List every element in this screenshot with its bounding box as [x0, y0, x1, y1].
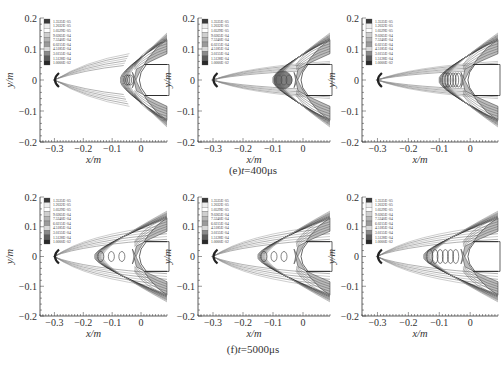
legend-swatch: [366, 226, 372, 231]
legend-level-label: 1.0000E+02: [211, 240, 229, 244]
y-tick-label: 0.1: [183, 221, 196, 232]
x-tick-label: −0.2: [74, 143, 92, 154]
legend-swatch: [44, 37, 50, 42]
x-tick-label: −0.3: [45, 143, 63, 154]
y-tick-label: 0.2: [25, 13, 38, 24]
legend-level-label: 1.5128E+04: [53, 57, 71, 61]
legend-level-label: 9.0265E+04: [53, 213, 71, 217]
legend-swatch: [44, 239, 50, 244]
legend-level-label: 1.2032E+05: [211, 24, 229, 28]
legend-swatch: [202, 24, 208, 29]
legend-level-label: 1.3535E+05: [53, 199, 71, 203]
legend-level-label: 6.0215E+04: [375, 222, 393, 226]
legend-level-label: 4.5185E+04: [53, 47, 71, 51]
y-axis-label: y/m: [4, 249, 15, 266]
legend-swatch: [44, 42, 50, 47]
legend-level-label: 9.0265E+04: [375, 213, 393, 217]
contour-panel-1-1: −0.3−0.2−0.100.20.10−0.1−0.2x/my/m1.3535…: [162, 192, 332, 340]
legend-swatch: [44, 203, 50, 208]
legend-level-label: 4.5185E+04: [211, 47, 229, 51]
legend-swatch: [44, 212, 50, 217]
legend-level-label: 1.0529E+05: [375, 208, 393, 212]
contour-legend: 1.3535E+051.2032E+051.0529E+059.0265E+04…: [202, 19, 229, 65]
contour-legend: 1.3535E+051.2032E+051.0529E+059.0265E+04…: [44, 19, 71, 65]
legend-level-label: 3.0155E+04: [211, 231, 229, 235]
y-tick-label: 0.1: [25, 44, 38, 55]
legend-level-label: 4.5185E+04: [375, 47, 393, 51]
x-tick-label: 0: [468, 143, 473, 154]
legend-swatch: [202, 216, 208, 221]
legend-level-label: 7.5240E+04: [375, 38, 393, 42]
contour-legend: 1.3535E+051.2032E+051.0529E+059.0265E+04…: [202, 198, 229, 244]
caption-row-e: (e)t=400μs: [173, 164, 333, 176]
y-axis-label: y/m: [162, 72, 173, 89]
legend-swatch: [44, 33, 50, 38]
legend-swatch: [44, 28, 50, 33]
y-axis-label: y/m: [4, 72, 15, 89]
legend-level-label: 3.0155E+04: [53, 52, 71, 56]
legend-level-label: 1.5128E+04: [211, 57, 229, 61]
legend-swatch: [366, 33, 372, 38]
y-tick-label: −0.2: [341, 137, 359, 148]
legend-level-label: 9.0265E+04: [375, 34, 393, 38]
legend-level-label: 3.0155E+04: [53, 231, 71, 235]
legend-swatch: [202, 51, 208, 56]
x-tick-label: −0.1: [264, 317, 282, 328]
legend-swatch: [202, 47, 208, 52]
legend-swatch: [202, 56, 208, 61]
y-tick-label: 0.1: [347, 44, 360, 55]
y-tick-label: −0.1: [19, 281, 37, 292]
legend-swatch: [366, 56, 372, 61]
legend-swatch: [366, 47, 372, 52]
x-tick-label: −0.1: [264, 143, 282, 154]
contour-panel-0-2: −0.3−0.2−0.100.20.10−0.1−0.2x/my/m1.3535…: [326, 13, 500, 166]
legend-swatch: [202, 19, 208, 24]
legend-swatch: [44, 19, 50, 24]
legend-level-label: 1.2032E+05: [53, 24, 71, 28]
y-tick-label: 0.2: [183, 13, 196, 24]
legend-level-label: 1.2032E+05: [53, 203, 71, 207]
legend-level-label: 1.0000E+02: [375, 61, 393, 65]
legend-level-label: 1.3535E+05: [53, 20, 71, 24]
legend-level-label: 1.3535E+05: [211, 199, 229, 203]
y-tick-label: −0.2: [19, 137, 37, 148]
legend-swatch: [44, 24, 50, 29]
legend-level-label: 9.0265E+04: [211, 213, 229, 217]
legend-swatch: [366, 24, 372, 29]
legend-swatch: [366, 51, 372, 56]
y-tick-label: 0: [32, 251, 37, 262]
legend-swatch: [366, 28, 372, 33]
legend-swatch: [366, 207, 372, 212]
x-tick-label: 0: [139, 317, 144, 328]
contour-legend: 1.3535E+051.2032E+051.0529E+059.0265E+04…: [44, 198, 71, 244]
y-axis-label: y/m: [326, 72, 337, 89]
legend-level-label: 3.0155E+04: [375, 231, 393, 235]
legend-swatch: [202, 239, 208, 244]
legend-swatch: [44, 221, 50, 226]
legend-level-label: 9.0265E+04: [211, 34, 229, 38]
legend-swatch: [44, 226, 50, 231]
legend-level-label: 6.0215E+04: [53, 222, 71, 226]
legend-swatch: [366, 216, 372, 221]
legend-swatch: [366, 212, 372, 217]
legend-swatch: [44, 47, 50, 52]
legend-level-label: 1.0000E+02: [211, 61, 229, 65]
x-tick-label: −0.3: [368, 143, 386, 154]
x-axis-label: x/m: [85, 154, 102, 165]
y-axis-label: y/m: [326, 249, 337, 266]
legend-swatch: [366, 19, 372, 24]
y-tick-label: −0.1: [341, 281, 359, 292]
x-tick-label: −0.3: [204, 317, 222, 328]
x-axis-label: x/m: [411, 154, 428, 165]
legend-level-label: 1.0529E+05: [53, 29, 71, 33]
x-tick-label: −0.3: [45, 317, 63, 328]
legend-swatch: [202, 203, 208, 208]
legend-level-label: 4.5185E+04: [375, 226, 393, 230]
x-axis-label: x/m: [411, 328, 428, 339]
y-tick-label: 0.1: [183, 44, 196, 55]
y-tick-label: 0.1: [25, 221, 38, 232]
y-tick-label: −0.1: [341, 106, 359, 117]
legend-swatch: [44, 56, 50, 61]
x-tick-label: 0: [468, 317, 473, 328]
legend-level-label: 1.5128E+04: [211, 236, 229, 240]
